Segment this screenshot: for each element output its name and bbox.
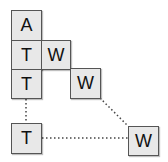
cell-w-row2: W [41, 40, 71, 70]
cell-t-row3: T [11, 69, 42, 99]
cell-a: A [11, 10, 42, 41]
cell-t-row2: T [11, 40, 42, 70]
edge-diagonal-w-to-w [100, 98, 128, 126]
cell-w-row3: W [70, 68, 101, 99]
cell-w-bottom: W [128, 126, 159, 156]
cell-t-bottom: T [11, 123, 42, 154]
